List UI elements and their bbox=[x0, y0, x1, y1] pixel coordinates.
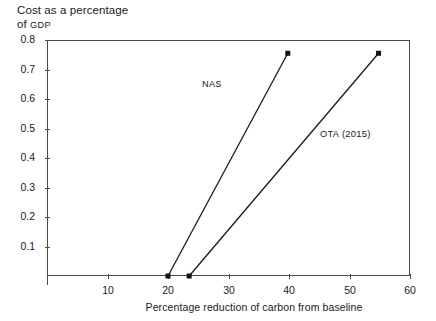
chart-title-line-2: of GDP bbox=[17, 17, 128, 32]
y-axis-tick-label: 0.3 bbox=[9, 181, 35, 193]
series-label-nas-text: NAS bbox=[202, 79, 222, 89]
plot-area bbox=[47, 40, 410, 276]
y-axis-tick bbox=[45, 129, 50, 130]
y-axis-tick bbox=[45, 188, 50, 189]
series-label-nas: NAS bbox=[202, 78, 222, 89]
series-label-ota-year: (2015) bbox=[339, 128, 371, 139]
y-axis-tick-label: 0.2 bbox=[9, 210, 35, 222]
x-axis-tick-label: 50 bbox=[335, 284, 365, 296]
y-axis-tick-label: 0.6 bbox=[9, 92, 35, 104]
y-axis-tick-label: 0.4 bbox=[9, 151, 35, 163]
y-axis-tick bbox=[45, 70, 50, 71]
y-axis-tick-label: 0.1 bbox=[9, 240, 35, 252]
x-axis-tick-label: 60 bbox=[395, 284, 425, 296]
x-axis-title-text: Percentage reduction of carbon from base… bbox=[146, 301, 363, 313]
x-axis-tick bbox=[108, 274, 109, 279]
chart-title-line-1: Cost as a percentage bbox=[17, 4, 128, 16]
chart-container: Cost as a percentage of GDP 0.10.20.30.4… bbox=[0, 0, 436, 321]
y-axis-tick bbox=[45, 40, 50, 41]
x-axis-tick bbox=[168, 274, 169, 279]
y-axis-tick bbox=[45, 158, 50, 159]
x-axis-tick bbox=[229, 274, 230, 279]
x-axis-title: Percentage reduction of carbon from base… bbox=[0, 301, 436, 313]
x-axis-tick-label: 10 bbox=[93, 284, 123, 296]
y-axis-tick-label: 0.8 bbox=[9, 33, 35, 45]
chart-title-line-2-prefix: of bbox=[17, 18, 30, 30]
x-axis-tick bbox=[350, 274, 351, 279]
y-axis-tick-label: 0.5 bbox=[9, 122, 35, 134]
y-axis-stub bbox=[47, 276, 48, 285]
y-axis-tick bbox=[45, 217, 50, 218]
series-label-ota-abbrev: OTA bbox=[320, 129, 339, 139]
y-axis-tick bbox=[45, 247, 50, 248]
y-axis-tick-label: 0.7 bbox=[9, 63, 35, 75]
x-axis-tick-label: 40 bbox=[274, 284, 304, 296]
x-axis-tick-label: 30 bbox=[214, 284, 244, 296]
chart-title: Cost as a percentage of GDP bbox=[17, 3, 128, 32]
chart-title-gdp-abbrev: GDP bbox=[30, 20, 51, 30]
series-label-ota: OTA (2015) bbox=[320, 128, 371, 139]
y-axis-tick bbox=[45, 99, 50, 100]
x-axis-tick bbox=[289, 274, 290, 279]
x-axis-tick bbox=[410, 274, 411, 279]
x-axis-tick-label: 20 bbox=[153, 284, 183, 296]
